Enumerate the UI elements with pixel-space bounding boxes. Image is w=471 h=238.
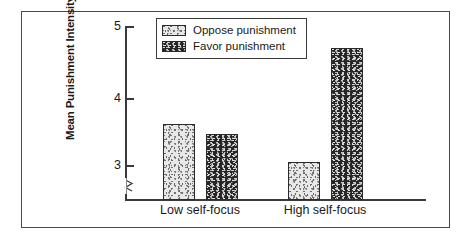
bar-favor-low: [206, 134, 238, 200]
bar-oppose-low: [163, 124, 195, 200]
y-axis-line: [125, 26, 127, 200]
legend-swatch-oppose-icon: [162, 25, 186, 36]
x-axis-label-high: High self-focus: [265, 203, 385, 217]
legend-item-favor: Favor punishment: [162, 38, 301, 54]
bar-oppose-high: [288, 162, 320, 200]
x-axis-label-low: Low self-focus: [140, 203, 260, 217]
legend-label-favor: Favor punishment: [193, 40, 285, 52]
figure-chart: Mean Punishment Intensity 5 4 3 Low self…: [0, 0, 471, 238]
legend-label-oppose: Oppose punishment: [193, 24, 296, 36]
axis-break-icon: [119, 178, 136, 194]
legend-item-oppose: Oppose punishment: [162, 22, 301, 38]
y-tick-label-3: 3: [99, 158, 121, 172]
y-tick-3: [126, 165, 134, 167]
legend-swatch-favor-icon: [162, 41, 186, 52]
legend: Oppose punishment Favor punishment: [156, 18, 307, 59]
bar-favor-high: [331, 48, 363, 200]
y-tick-4: [126, 98, 134, 100]
y-tick-label-5: 5: [99, 19, 121, 33]
y-axis-title: Mean Punishment Intensity: [64, 0, 84, 148]
y-tick-5: [126, 26, 134, 28]
y-tick-label-4: 4: [99, 91, 121, 105]
